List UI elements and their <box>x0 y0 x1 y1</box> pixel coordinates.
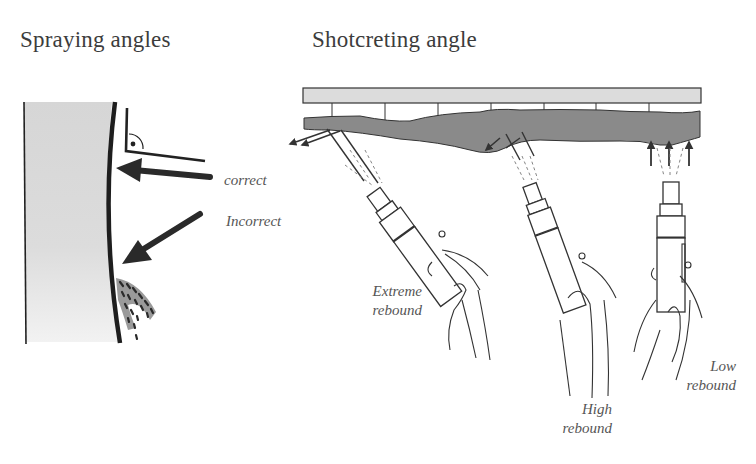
nozzle-low <box>634 142 702 380</box>
label-low-line2: rebound <box>672 376 736 395</box>
label-high-rebound: High rebound <box>550 400 612 438</box>
ceiling-slab <box>303 88 701 103</box>
label-low-line1: Low <box>672 357 736 376</box>
label-high-line2: rebound <box>550 419 612 438</box>
shotcrete-layer <box>304 109 700 152</box>
right-panel <box>290 88 702 398</box>
rock-wall <box>24 102 118 342</box>
nozzle-high <box>486 132 616 398</box>
label-correct: correct <box>224 171 267 190</box>
label-low-rebound: Low rebound <box>672 357 736 395</box>
left-panel <box>24 102 210 344</box>
nozzle-extreme <box>290 129 490 360</box>
diagram-artwork <box>0 0 756 464</box>
label-incorrect: Incorrect <box>226 212 281 231</box>
label-high-line1: High <box>550 400 612 419</box>
label-extreme-rebound: Extreme rebound <box>356 282 422 320</box>
incorrect-arrow <box>122 214 200 264</box>
right-angle-marker <box>126 108 205 161</box>
label-extreme-line1: Extreme <box>356 282 422 301</box>
label-extreme-line2: rebound <box>356 301 422 320</box>
rebound-splatter <box>116 278 156 339</box>
correct-arrow <box>116 158 210 182</box>
